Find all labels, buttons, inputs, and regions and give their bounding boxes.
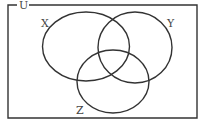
universe-label: U [19, 0, 28, 12]
set-z-label: Z [76, 104, 84, 117]
venn-diagram-svg: U X Y Z [0, 0, 200, 121]
set-x-label: X [41, 17, 49, 30]
set-y-ellipse [98, 12, 172, 83]
venn-diagram: U X Y Z [0, 0, 200, 121]
set-x-ellipse [43, 12, 130, 81]
set-y-label: Y [166, 17, 175, 30]
